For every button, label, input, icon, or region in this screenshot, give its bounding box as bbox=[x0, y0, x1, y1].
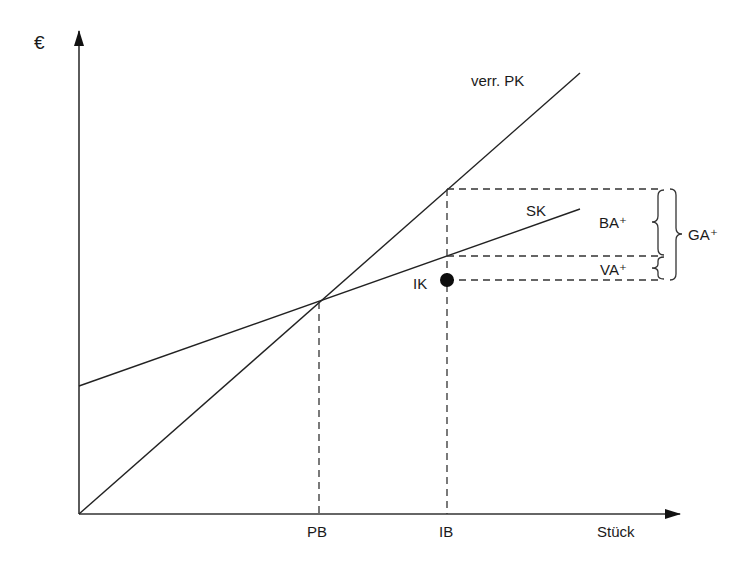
verr-pk-label: verr. PK bbox=[471, 72, 524, 89]
dashed-guides bbox=[319, 189, 660, 514]
ba-brace bbox=[652, 190, 664, 255]
ib-label: IB bbox=[439, 523, 453, 540]
va-brace bbox=[652, 257, 664, 279]
sk-label: SK bbox=[526, 202, 546, 219]
cost-diagram: € verr. PK SK IK BA⁺ VA⁺ GA⁺ PB IB Stück bbox=[0, 0, 751, 564]
va-label: VA⁺ bbox=[600, 261, 627, 278]
ik-label: IK bbox=[413, 275, 427, 292]
ga-label: GA⁺ bbox=[688, 226, 718, 243]
sk-line bbox=[79, 209, 580, 386]
ik-point bbox=[440, 273, 454, 287]
pb-label: PB bbox=[307, 523, 327, 540]
braces bbox=[652, 189, 682, 280]
x-axis-label: Stück bbox=[597, 523, 635, 540]
ga-brace bbox=[670, 189, 682, 280]
ba-label: BA⁺ bbox=[599, 214, 627, 231]
y-axis-label: € bbox=[34, 32, 45, 53]
verr-pk-line bbox=[79, 73, 580, 514]
